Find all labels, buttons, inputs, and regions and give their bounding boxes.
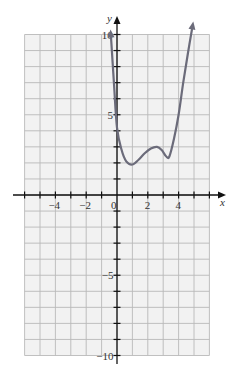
y-tick-label: −5 (102, 269, 114, 281)
x-tick-label: 2 (145, 199, 151, 211)
y-tick-label: 5 (107, 109, 113, 121)
y-tick-label: −10 (96, 350, 114, 362)
polynomial-graph: −4−2024105−5−10 x y (0, 0, 236, 376)
x-tick-label: 0 (111, 199, 117, 211)
x-tick-label: −2 (79, 199, 91, 211)
x-axis-label: x (219, 196, 225, 208)
x-tick-label: −4 (48, 199, 60, 211)
y-axis-label: y (106, 12, 112, 24)
curve-right-arrow-icon (189, 22, 196, 30)
y-axis-arrow-icon (114, 16, 121, 24)
x-tick-label: 4 (176, 199, 182, 211)
